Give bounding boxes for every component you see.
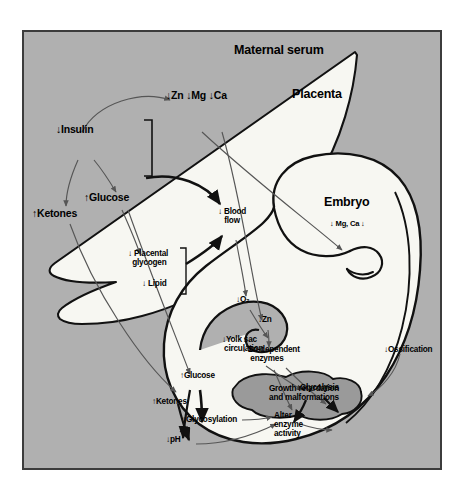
- node-outcome: Growth retardation and malformations: [248, 385, 360, 403]
- node-ketones-maternal: ↑Ketones: [32, 208, 77, 219]
- arrow-insulin-to-minerals: [82, 97, 170, 132]
- label-placenta: Placenta: [292, 88, 342, 102]
- node-lipid: ↓ Lipid: [142, 280, 167, 289]
- node-minerals-maternal: ↓Zn ↓Mg ↓Ca: [166, 90, 227, 101]
- arrow-insulin-to-glucose: [94, 160, 116, 192]
- node-glucose-maternal: ↑Glucose: [84, 192, 129, 203]
- node-insulin: ↓Insulin: [56, 124, 93, 135]
- node-oxygen: ↓O₂: [236, 296, 250, 305]
- node-ph: ↓pH: [166, 436, 180, 445]
- node-ossification: ↓Ossification: [384, 346, 432, 355]
- node-minerals-embryo: ↓ Mg, Ca ↓: [330, 220, 365, 228]
- diagram-canvas: [24, 32, 440, 468]
- label-embryo: Embryo: [324, 196, 369, 210]
- node-glycosylation: ↑Glycosylation: [182, 416, 237, 425]
- bracket-maternal-group: [144, 120, 152, 176]
- node-blood-flow: ↓ Blood flow: [218, 208, 246, 226]
- arrow-insulin-to-ketones: [66, 160, 78, 206]
- node-glucose-embryo: ↑Glucose: [180, 372, 215, 381]
- node-alter-enzyme-activity: Alter enzyme activity: [274, 412, 303, 439]
- node-ketones-embryo: ↑Ketones: [152, 398, 187, 407]
- diagram-plate: Maternal serum Placenta Embryo ↓Insulin …: [22, 30, 442, 470]
- node-zn-enzymes: ↓ Zn-dependent enzymes: [242, 346, 300, 364]
- node-zinc-embryo: ↓Zn: [258, 316, 272, 325]
- node-placental-glycogen: ↓ Placental glycogen: [128, 250, 168, 268]
- figure-diagram: Maternal serum Placenta Embryo ↓Insulin …: [0, 0, 470, 499]
- label-maternal-serum: Maternal serum: [234, 44, 324, 58]
